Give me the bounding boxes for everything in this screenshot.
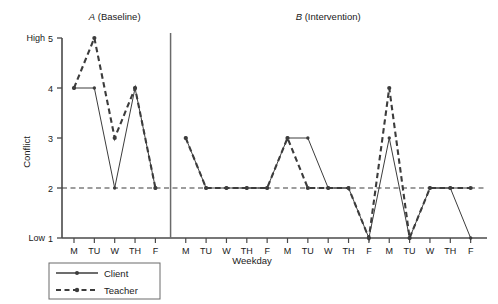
x-tick-label: TU (404, 246, 416, 256)
x-tick-label: TU (200, 246, 212, 256)
x-tick-label: W (426, 246, 435, 256)
x-tick-label: F (468, 246, 474, 256)
y-low-label: Low (28, 233, 45, 243)
data-point (469, 236, 472, 239)
y-tick-label: 4 (48, 84, 53, 94)
x-tick-label: TU (302, 246, 314, 256)
phase-a-letter: A (88, 11, 95, 22)
data-point (184, 136, 188, 140)
legend-marker-client (75, 271, 79, 275)
data-point (245, 186, 249, 190)
x-tick-label: W (222, 246, 231, 256)
data-point (346, 186, 350, 190)
x-tick-label: W (324, 246, 333, 256)
y-tick-label: 1 (48, 234, 53, 244)
data-point (306, 186, 310, 190)
x-tick-label: W (110, 246, 119, 256)
data-point (153, 186, 157, 190)
phase-a-title: A (Baseline) (88, 11, 141, 22)
y-high-label: High (26, 33, 45, 43)
y-tick-group: 12345 (48, 34, 62, 244)
legend-label-client: Client (104, 268, 129, 279)
series-teacher (72, 36, 473, 240)
data-point (72, 86, 76, 90)
x-tick-group: MTUWTHFMTUWTHFMTUWTHFMTUWTHF (70, 238, 474, 256)
series-client (72, 86, 472, 239)
data-point (408, 236, 412, 240)
data-point (113, 186, 116, 189)
data-point (469, 186, 473, 190)
legend-label-teacher: Teacher (104, 285, 138, 296)
data-point (204, 186, 208, 190)
x-tick-label: TU (88, 246, 100, 256)
data-point (388, 136, 391, 139)
data-point (224, 186, 228, 190)
phase-b-title: B (Intervention) (296, 11, 361, 22)
x-tick-label: F (153, 246, 159, 256)
x-tick-label: TH (343, 246, 355, 256)
data-point (285, 136, 289, 140)
series-layer (72, 36, 473, 240)
x-tick-label: TH (444, 246, 456, 256)
phase-a-rest: (Baseline) (95, 11, 140, 22)
data-point (367, 236, 371, 240)
x-axis-title: Weekday (232, 255, 272, 266)
data-point (133, 86, 137, 90)
data-point (306, 136, 309, 139)
data-point (448, 186, 452, 190)
phase-b-rest: (Intervention) (302, 11, 361, 22)
legend-box: Client Teacher (49, 263, 160, 299)
x-tick-label: M (284, 246, 292, 256)
x-tick-label: M (70, 246, 78, 256)
conflict-ab-design-chart: 12345 MTUWTHFMTUWTHFMTUWTHFMTUWTHF Confl… (0, 0, 498, 304)
x-tick-label: M (182, 246, 190, 256)
x-tick-label: TH (129, 246, 141, 256)
x-tick-label: M (386, 246, 394, 256)
data-point (265, 186, 269, 190)
legend-marker-teacher (75, 288, 79, 292)
data-point (113, 136, 117, 140)
y-axis-title: Conflict (21, 136, 32, 168)
data-point (326, 186, 330, 190)
data-point (428, 186, 432, 190)
data-point (93, 86, 96, 89)
y-tick-label: 2 (48, 184, 53, 194)
x-tick-label: F (366, 246, 372, 256)
series-line (74, 38, 155, 188)
series-line (186, 88, 471, 238)
y-tick-label: 5 (48, 34, 53, 44)
data-point (92, 36, 96, 40)
y-tick-label: 3 (48, 134, 53, 144)
data-point (387, 86, 391, 90)
